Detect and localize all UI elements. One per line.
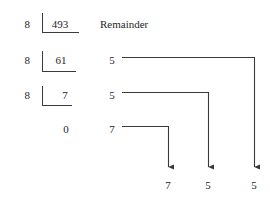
result-digit-2: 5	[205, 180, 211, 191]
remainder-connector-lines	[0, 0, 270, 200]
result-digit-1: 7	[165, 180, 171, 191]
connector-remainder-2	[122, 93, 209, 168]
connector-remainder-1	[122, 58, 255, 168]
result-digit-3: 5	[251, 180, 257, 191]
short-division-figure: 8 493 Remainder 8 61 5 8 7 5 0 7 7 5 5	[0, 0, 270, 200]
connector-remainder-3	[122, 127, 169, 168]
